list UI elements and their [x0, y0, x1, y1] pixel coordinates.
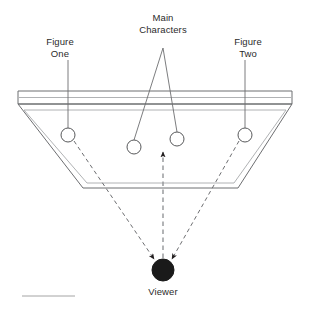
main-character-right-marker [170, 132, 184, 146]
sightline-figure-two [172, 141, 239, 259]
viewer-marker [152, 259, 174, 281]
main-character-left-marker [127, 140, 141, 154]
stage-floor-outer [18, 104, 292, 188]
diagram-root: Figure One Main Characters Figure Two Vi… [0, 0, 311, 313]
label-figure-one: Figure One [30, 36, 90, 59]
label-figure-two: Figure Two [218, 36, 278, 59]
label-main-characters: Main Characters [124, 12, 202, 35]
figure-two-marker [238, 128, 252, 142]
label-viewer: Viewer [133, 286, 193, 298]
sightline-figure-one [74, 141, 154, 259]
figure-one-marker [61, 128, 75, 142]
stage-floor-inner [24, 110, 286, 183]
stage-back-wall [18, 91, 292, 104]
